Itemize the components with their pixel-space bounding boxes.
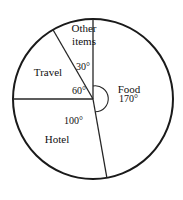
angle-label-other-items: 30°	[76, 61, 90, 72]
pie-chart-figure: Food Hotel Travel Other items 170° 100° …	[0, 0, 183, 200]
angle-label-food: 170°	[119, 93, 138, 104]
angle-label-hotel: 100°	[64, 115, 83, 126]
sector-label-hotel: Hotel	[45, 133, 69, 145]
sector-label-other-items-line1: Other	[71, 22, 96, 34]
sector-label-other-items-line2: items	[72, 35, 96, 47]
sector-label-travel: Travel	[34, 66, 62, 78]
pie-chart-svg: Food Hotel Travel Other items 170° 100° …	[0, 0, 183, 200]
angle-label-travel: 60°	[72, 85, 86, 96]
